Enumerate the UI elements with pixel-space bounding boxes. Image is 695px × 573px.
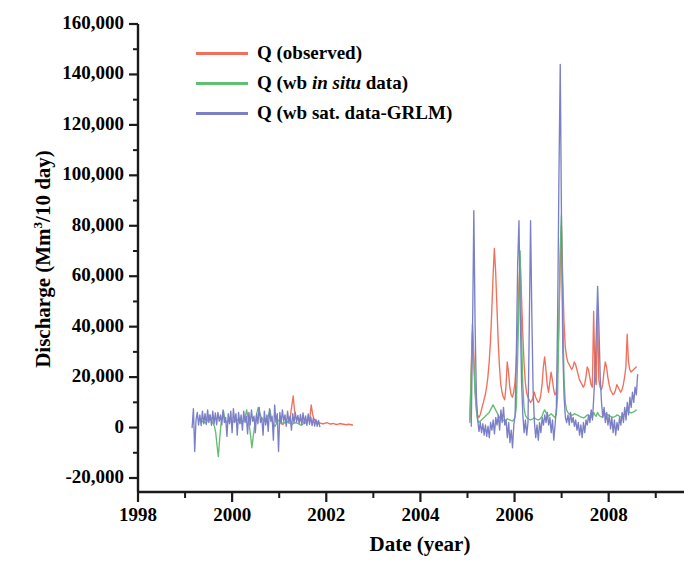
x-tick-label: 2004 (380, 504, 460, 526)
legend-item-2[interactable]: Q (wb in situ data) (196, 68, 452, 98)
legend-item-3[interactable]: Q (wb sat. data-GRLM) (196, 98, 452, 128)
y-axis-title-superscript: 3 (30, 222, 45, 229)
x-tick-label: 2006 (475, 504, 555, 526)
legend-item-1[interactable]: Q (observed) (196, 38, 452, 68)
x-tick-label: 2002 (286, 504, 366, 526)
chart-figure: -20,000020,00040,00060,00080,000100,0001… (0, 0, 695, 573)
chart-legend: Q (observed)Q (wb in situ data)Q (wb sat… (196, 38, 452, 128)
series-line-1-segment-2 (470, 226, 636, 420)
series-line-3-segment-1 (192, 405, 320, 452)
legend-item-label: Q (wb in situ data) (257, 72, 408, 94)
x-tick-label: 1998 (98, 504, 178, 526)
x-tick-label: 2008 (569, 504, 649, 526)
legend-item-label: Q (observed) (257, 42, 362, 64)
legend-label-italic-part: in situ (312, 72, 361, 93)
legend-item-label: Q (wb sat. data-GRLM) (257, 102, 452, 124)
y-tick-label: 160,000 (14, 12, 124, 34)
legend-color-swatch (196, 52, 248, 55)
x-axis-title: Date (year) (300, 532, 540, 557)
y-axis-title: Discharge (Mm3/10 day) (30, 79, 56, 439)
legend-color-swatch (196, 82, 248, 85)
x-tick-label: 2000 (192, 504, 272, 526)
y-tick-label: -20,000 (14, 466, 124, 488)
legend-color-swatch (196, 112, 248, 115)
